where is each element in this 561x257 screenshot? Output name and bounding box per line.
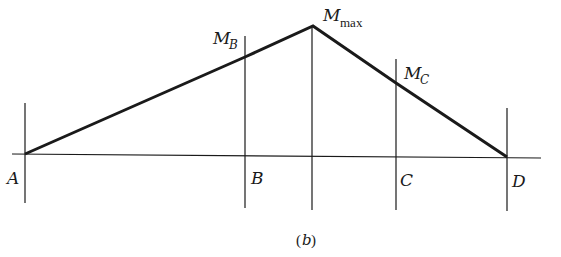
- label-m-max-main: M: [322, 5, 341, 25]
- label-d: D: [511, 171, 526, 191]
- moment-curve: [25, 26, 507, 157]
- label-a: A: [5, 168, 19, 188]
- label-c: C: [400, 170, 413, 190]
- label-m-max-sub: max: [340, 15, 363, 30]
- label-m-b: M B: [212, 28, 238, 52]
- beam-baseline: [12, 154, 541, 158]
- label-m-max: M max: [322, 5, 363, 30]
- caption-open-paren: (: [296, 232, 301, 249]
- label-b: B: [250, 168, 264, 188]
- figure-caption: ( b ): [296, 231, 316, 249]
- caption-close-paren: ): [311, 232, 316, 249]
- label-m-b-sub: B: [228, 38, 238, 52]
- label-m-c-sub: C: [420, 73, 429, 87]
- bending-moment-diagram: A B C D M B M max M C ( b ): [0, 0, 561, 257]
- label-m-c: M C: [403, 63, 429, 87]
